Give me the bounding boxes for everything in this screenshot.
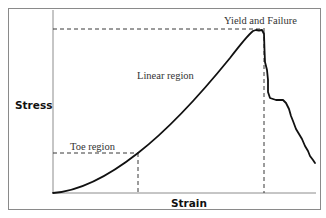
yield-failure-label: Yield and Failure (224, 15, 297, 26)
toe-region-label: Toe region (70, 141, 116, 152)
stress-strain-curve (53, 30, 315, 193)
y-axis-label: Stress (15, 99, 52, 111)
linear-region-label: Linear region (137, 70, 195, 81)
stress-strain-diagram: Toe region Linear region Yield and Failu… (0, 0, 326, 218)
x-axis-label: Strain (171, 197, 207, 209)
